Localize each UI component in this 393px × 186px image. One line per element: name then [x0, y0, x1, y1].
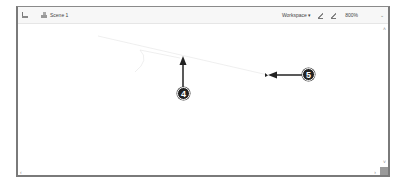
arrow-4 — [180, 56, 187, 87]
arrow-5 — [268, 72, 303, 79]
callout-4: 4 — [177, 87, 190, 100]
callout-5: 5 — [302, 68, 315, 81]
scene-drawing — [0, 0, 393, 186]
